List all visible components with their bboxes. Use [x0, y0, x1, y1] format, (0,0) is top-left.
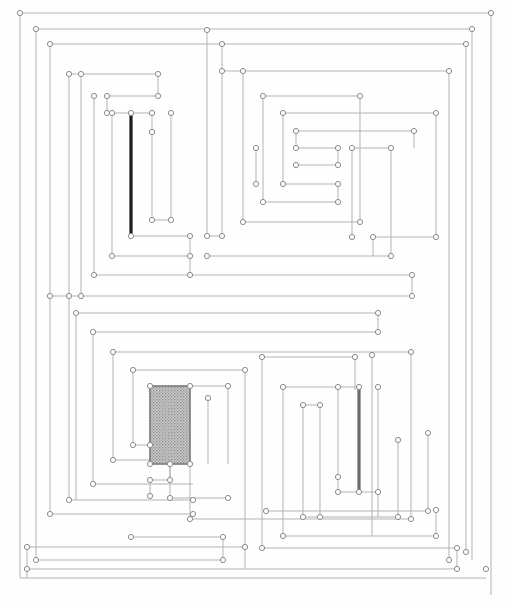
node-marker [47, 41, 52, 46]
node-marker [375, 384, 380, 389]
node-marker [349, 145, 354, 150]
node-marker [260, 199, 265, 204]
node-marker [219, 68, 224, 73]
node-marker [259, 545, 264, 550]
node-marker [433, 110, 438, 115]
node-marker [375, 329, 380, 334]
node-marker [219, 233, 224, 238]
node-marker [130, 367, 135, 372]
node-marker [147, 477, 152, 482]
node-marker [293, 162, 298, 167]
node-marker [187, 253, 192, 258]
node-marker [357, 93, 362, 98]
node-marker [168, 217, 173, 222]
node-marker [167, 477, 172, 482]
node-marker [220, 534, 225, 539]
node-marker [155, 93, 160, 98]
node-marker [130, 442, 135, 447]
node-marker [190, 511, 195, 516]
node-marker [335, 199, 340, 204]
node-marker [66, 293, 71, 298]
node-marker [388, 253, 393, 258]
node-marker [335, 489, 340, 494]
node-marker [155, 71, 160, 76]
canvas-background [0, 0, 511, 609]
node-marker [78, 71, 83, 76]
node-marker [395, 514, 400, 519]
node-marker [300, 402, 305, 407]
node-marker [388, 145, 393, 150]
node-marker [463, 41, 468, 46]
node-marker [225, 495, 230, 500]
node-marker [469, 26, 474, 31]
node-marker [66, 497, 71, 502]
node-marker [78, 293, 83, 298]
node-marker [225, 383, 230, 388]
node-marker [488, 10, 493, 15]
node-marker [280, 181, 285, 186]
node-marker [369, 352, 374, 357]
node-marker [147, 461, 152, 466]
node-marker [263, 508, 268, 513]
node-marker [375, 310, 380, 315]
node-marker [425, 508, 430, 513]
node-marker [147, 442, 152, 447]
node-marker [109, 253, 114, 258]
hatched-region [150, 386, 190, 464]
node-marker [335, 181, 340, 186]
node-marker [104, 93, 109, 98]
node-marker [280, 384, 285, 389]
node-marker [187, 383, 192, 388]
node-marker [240, 219, 245, 224]
node-marker [110, 349, 115, 354]
node-marker [104, 110, 109, 115]
node-marker [356, 489, 361, 494]
node-marker [357, 219, 362, 224]
node-marker [149, 217, 154, 222]
node-marker [168, 110, 173, 115]
node-marker [187, 516, 192, 521]
node-marker [293, 128, 298, 133]
node-marker [128, 233, 133, 238]
node-marker [187, 272, 192, 277]
node-marker [409, 293, 414, 298]
node-marker [240, 68, 245, 73]
node-marker [454, 566, 459, 571]
node-marker [395, 437, 400, 442]
node-marker [128, 534, 133, 539]
node-marker [147, 493, 152, 498]
node-marker [317, 514, 322, 519]
node-marker [335, 384, 340, 389]
node-marker [110, 457, 115, 462]
node-marker [47, 511, 52, 516]
node-marker [190, 497, 195, 502]
node-marker [280, 533, 285, 538]
node-marker [352, 354, 357, 359]
node-marker [411, 128, 416, 133]
node-marker [433, 507, 438, 512]
node-marker [147, 383, 152, 388]
node-marker [91, 93, 96, 98]
node-marker [17, 10, 22, 15]
node-marker [47, 293, 52, 298]
node-marker [242, 367, 247, 372]
node-marker [408, 516, 413, 521]
node-marker [280, 110, 285, 115]
node-marker [335, 474, 340, 479]
node-marker [219, 41, 224, 46]
node-marker [204, 233, 209, 238]
node-marker [335, 162, 340, 167]
node-marker [33, 557, 38, 562]
node-marker [187, 461, 192, 466]
node-marker [220, 557, 225, 562]
node-marker [349, 234, 354, 239]
node-marker [204, 27, 209, 32]
node-marker [409, 272, 414, 277]
node-marker [90, 481, 95, 486]
node-marker [335, 145, 340, 150]
node-marker [370, 234, 375, 239]
node-marker [433, 234, 438, 239]
node-marker [33, 26, 38, 31]
node-marker [446, 557, 451, 562]
node-marker [149, 110, 154, 115]
